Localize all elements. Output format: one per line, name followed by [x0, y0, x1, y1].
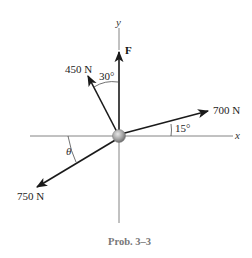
- angle-15-arc: [171, 124, 172, 136]
- force-f-label: F: [125, 44, 132, 56]
- force-450-arrow: [88, 76, 118, 134]
- angle-30-label: 30°: [99, 70, 114, 82]
- angle-15-label: 15°: [175, 122, 190, 134]
- particle: [113, 130, 126, 143]
- force-450-label: 450 N: [65, 63, 92, 75]
- force-diagram: x y F 450 N 30° 700 N 15° 750 N θ Prob. …: [0, 0, 252, 258]
- angle-theta-label: θ: [66, 145, 72, 157]
- force-700-arrow: [121, 111, 208, 134]
- caption: Prob. 3–3: [108, 236, 151, 247]
- force-750-arrow: [37, 139, 117, 187]
- force-750-label: 750 N: [17, 190, 44, 202]
- angle-30-arc: [94, 82, 118, 87]
- x-axis-label: x: [234, 129, 240, 141]
- force-700-label: 700 N: [213, 104, 240, 116]
- y-axis-label: y: [115, 16, 121, 28]
